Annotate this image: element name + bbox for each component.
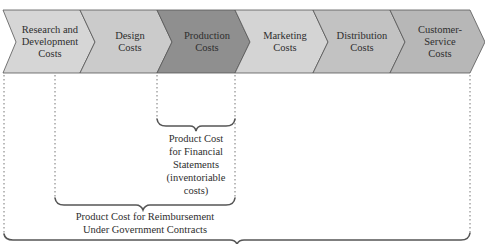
segment-customer-service-line: Service: [418, 36, 462, 48]
segment-customer-service: Customer- Service Costs: [402, 0, 478, 84]
segment-customer-service-line: Customer-: [418, 24, 462, 36]
financial-line: Statements: [150, 158, 242, 171]
label-financial-statements: Product Cost for Financial Statements (i…: [150, 132, 242, 197]
segment-distribution-line: Distribution: [337, 30, 388, 42]
financial-line: Product Cost: [150, 132, 242, 145]
segment-rnd-line: Development: [22, 36, 79, 48]
segment-design: Design Costs: [92, 0, 168, 84]
government-line: Product Cost for Reimbursement: [55, 210, 235, 223]
segment-rnd-line: Costs: [22, 48, 79, 60]
segment-marketing-line: Marketing: [263, 30, 307, 42]
brace-government-contracts: [55, 198, 235, 210]
segment-design-line: Costs: [115, 42, 145, 54]
brace-financial-statements: [157, 119, 235, 131]
segment-design-line: Design: [115, 30, 145, 42]
label-government-contracts: Product Cost for Reimbursement Under Gov…: [55, 210, 235, 236]
segment-marketing: Marketing Costs: [247, 0, 323, 84]
government-line: Under Government Contracts: [55, 223, 235, 236]
segment-distribution: Distribution Costs: [324, 0, 400, 84]
segment-marketing-line: Costs: [263, 42, 307, 54]
segment-rnd-line: Research and: [22, 24, 79, 36]
segment-customer-service-line: Costs: [418, 48, 462, 60]
financial-line: (inventoriable: [150, 171, 242, 184]
segment-distribution-line: Costs: [337, 42, 388, 54]
segment-rnd: Research and Development Costs: [12, 0, 88, 84]
segment-production-line: Production: [184, 30, 230, 42]
financial-line: costs): [150, 184, 242, 197]
segment-production: Production Costs: [169, 0, 245, 84]
financial-line: for Financial: [150, 145, 242, 158]
segment-production-line: Costs: [184, 42, 230, 54]
